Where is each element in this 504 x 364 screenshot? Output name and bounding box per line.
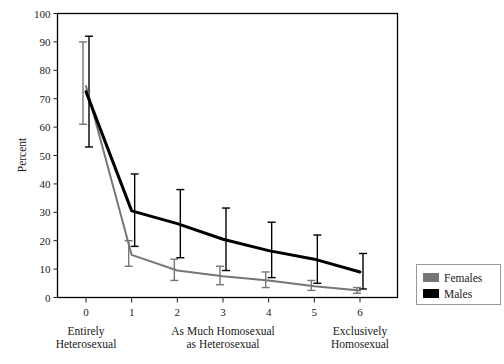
- legend-label-males: Males: [444, 288, 473, 300]
- x-tick-label: 5: [312, 306, 318, 318]
- plot-frame: [58, 14, 398, 298]
- x-axis-category-label: As Much Homosexual: [171, 325, 275, 337]
- line-chart: 0102030405060708090100 Percent 0123456 E…: [0, 0, 504, 364]
- y-tick-label: 70: [40, 93, 52, 105]
- legend-swatch-females: [423, 273, 439, 282]
- y-tick-label: 60: [40, 121, 52, 133]
- y-tick-label: 100: [34, 8, 51, 20]
- x-axis: 0123456: [83, 298, 363, 318]
- series-line-males: [86, 92, 360, 272]
- x-axis-category-label: Heterosexual: [56, 338, 117, 350]
- y-tick-label: 10: [40, 263, 52, 275]
- y-tick-label: 40: [40, 178, 52, 190]
- y-axis: 0102030405060708090100: [34, 8, 58, 304]
- y-tick-label: 50: [40, 150, 52, 162]
- legend: FemalesMales: [417, 265, 501, 305]
- y-tick-label: 20: [40, 235, 52, 247]
- x-axis-category-label: Entirely: [67, 325, 104, 338]
- x-tick-label: 4: [266, 306, 272, 318]
- figure-container: 0102030405060708090100 Percent 0123456 E…: [0, 0, 504, 364]
- legend-swatch-males: [423, 289, 439, 298]
- x-tick-label: 6: [357, 306, 363, 318]
- error-bars: [79, 36, 367, 293]
- y-tick-label: 30: [40, 206, 52, 218]
- y-tick-label: 0: [45, 292, 51, 304]
- x-axis-category-labels: EntirelyHeterosexualAs Much Homosexualas…: [56, 325, 389, 350]
- x-axis-category-label: as Heterosexual: [186, 338, 259, 350]
- y-tick-label: 80: [40, 64, 52, 76]
- data-series: [86, 86, 360, 290]
- x-tick-label: 1: [129, 306, 135, 318]
- y-tick-label: 90: [40, 36, 52, 48]
- error-bar: [79, 42, 87, 124]
- x-axis-category-label: Homosexual: [331, 338, 389, 350]
- legend-label-females: Females: [444, 272, 483, 284]
- y-axis-title: Percent: [16, 137, 28, 172]
- x-tick-label: 3: [220, 306, 226, 318]
- x-axis-category-label: Exclusively: [333, 325, 388, 338]
- x-tick-label: 0: [83, 306, 89, 318]
- x-tick-label: 2: [175, 306, 181, 318]
